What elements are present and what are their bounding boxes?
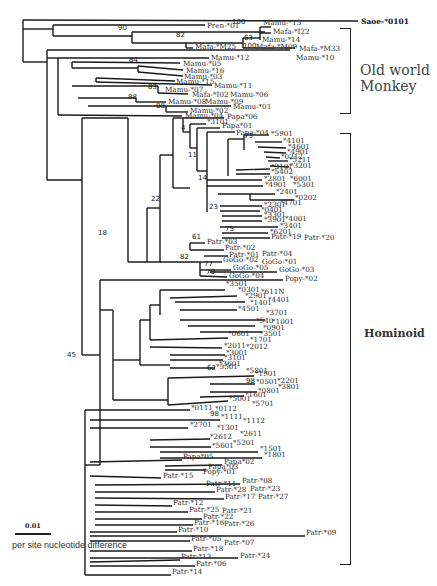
leaf-label: Mamu-*10 <box>296 54 334 62</box>
scale-value: 0.01 <box>25 522 41 530</box>
leaf-label: Patr-*19 <box>271 233 301 241</box>
leaf-label: *0501 <box>256 378 278 386</box>
bootstrap-value: 14 <box>198 174 207 182</box>
leaf-label: Patr-*15 <box>163 472 193 480</box>
leaf-label: *2612 <box>210 433 232 441</box>
bootstrap-value: 73 <box>244 132 253 140</box>
leaf-label: GoGo-*03 <box>279 266 314 274</box>
leaf-label: Patr-*07 <box>224 539 254 547</box>
bootstrap-value: 88 <box>156 102 165 110</box>
leaf-label: *1801 <box>264 451 286 459</box>
bootstrap-value: 82 <box>180 253 189 261</box>
leaf-label: *5701 <box>252 400 274 408</box>
leaf-label: Mafa-*M25 <box>195 43 236 51</box>
scale-caption: per site nucleotide difference <box>12 540 127 550</box>
leaf-label: Papa*05 <box>183 453 213 461</box>
leaf-label: *5601 <box>212 442 234 450</box>
bootstrap-value: 98 <box>246 377 255 385</box>
leaf-label: Patr-*10 <box>178 526 208 534</box>
leaf-label: *0601 <box>228 330 250 338</box>
leaf-label: Patr-*09 <box>306 529 336 537</box>
old-world-monkey-label: Old world Monkey <box>360 62 430 94</box>
bootstrap-value: 100 <box>243 42 256 50</box>
leaf-label: *5201 <box>233 439 255 447</box>
leaf-label: *2701 <box>190 421 212 429</box>
leaf-label: *2611 <box>240 430 262 438</box>
bootstrap-value: 83 <box>148 83 157 91</box>
leaf-label: Popy-*01 <box>203 468 236 476</box>
bootstrap-value: 61 <box>192 233 201 241</box>
leaf-label: Patr-*14 <box>172 568 202 576</box>
leaf-label: *2012 <box>246 343 268 351</box>
leaf-label: Patr-*26 <box>224 520 254 528</box>
leaf-label: Patr-*27 <box>258 493 288 501</box>
bootstrap-value: 90 <box>118 24 127 32</box>
bootstrap-value: 63 <box>244 34 253 42</box>
bootstrap-value: 22 <box>151 195 160 203</box>
hominoid-label: Hominoid <box>364 326 425 342</box>
leaf-label: Mamu-*08 <box>168 98 206 106</box>
leaf-label: Patr-*05 <box>191 535 221 543</box>
bootstrap-value: 79 <box>206 268 215 276</box>
bootstrap-value: 62 <box>207 364 216 372</box>
bootstrap-value: 84 <box>129 56 138 64</box>
bootstrap-value: 88 <box>128 93 137 101</box>
leaf-label: Mamu-*11 <box>214 82 252 90</box>
leaf-label: *1301 <box>217 424 239 432</box>
leaf-label: *5501 <box>216 363 238 371</box>
leaf-label: *5001 <box>229 395 251 403</box>
leaf-label: Papa*06 <box>227 113 257 121</box>
leaf-label: Patr-*20 <box>304 234 334 242</box>
bootstrap-value: 82 <box>176 31 185 39</box>
leaf-label: Mafa-*M33 <box>299 45 340 53</box>
leaf-label: *1112 <box>243 417 265 425</box>
leaf-label: Saoe-*0101 <box>361 18 409 26</box>
leaf-label: *3201 <box>290 162 312 170</box>
bootstrap-value: 45 <box>67 351 76 359</box>
scale-bar <box>15 533 51 535</box>
leaf-label: *4701 <box>280 199 302 207</box>
leaf-label: Mafa-*M09 <box>256 43 297 51</box>
bootstrap-value: 18 <box>98 229 107 237</box>
bootstrap-value: 11 <box>188 151 197 159</box>
leaf-label: Popy-*02 <box>285 275 318 283</box>
old-world-monkey-bracket <box>340 28 351 114</box>
leaf-label: Mamu-*13 <box>263 19 301 27</box>
leaf-label: *3801 <box>278 383 300 391</box>
hominoid-bracket <box>340 133 351 565</box>
leaf-label: *4501 <box>238 305 260 313</box>
bootstrap-value: 100 <box>232 18 245 26</box>
bootstrap-value: 98 <box>210 410 219 418</box>
bootstrap-value: 23 <box>209 203 218 211</box>
leaf-label: Patr-*24 <box>240 552 270 560</box>
bootstrap-value: 75 <box>225 225 234 233</box>
bootstrap-value: 4 <box>181 124 185 132</box>
leaf-label: Patr-*17 <box>225 493 255 501</box>
leaf-label: Mamu-*01 <box>233 103 271 111</box>
bootstrap-value: 77 <box>204 260 213 268</box>
leaf-label: *1111 <box>221 413 243 421</box>
